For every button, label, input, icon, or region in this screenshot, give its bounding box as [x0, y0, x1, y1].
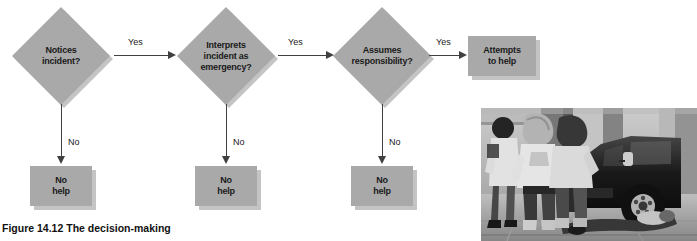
arrow-line: [226, 104, 227, 157]
outcome-node-attempts-to-help: Attempts to help: [468, 36, 536, 76]
node-label-line: incident?: [42, 56, 80, 67]
figure-decision-making-flowchart: Notices incident? Interprets incident as…: [0, 0, 697, 241]
node-label-line: No: [220, 175, 232, 186]
edge-label-yes-2: Yes: [288, 37, 303, 47]
arrow-head-icon: [168, 51, 176, 59]
node-label-line: to help: [488, 56, 516, 67]
decision-node-notices-incident: Notices incident?: [12, 7, 110, 105]
figure-caption-title: The decision-making: [66, 222, 170, 234]
edge-label-yes-3: Yes: [436, 37, 451, 47]
arrow-assumes-to-no-help-3: [378, 104, 387, 164]
photo-content: [481, 108, 697, 241]
arrow-interprets-to-no-help-2: [222, 104, 231, 164]
arrow-head-icon: [459, 51, 467, 59]
arrow-assumes-to-attempts: [429, 51, 467, 60]
arrow-interprets-to-assumes: [278, 51, 334, 60]
arrow-head-icon: [222, 156, 230, 164]
arrow-notices-to-no-help-1: [57, 104, 66, 164]
box-shape: No help: [351, 166, 413, 206]
node-label-line: No: [376, 175, 388, 186]
figure-caption: Figure 14.12The decision-making: [2, 222, 171, 234]
outcome-node-no-help-3: No help: [351, 166, 413, 206]
arrow-notices-to-interprets: [114, 51, 176, 60]
decision-node-label: Assumes responsibility?: [333, 7, 431, 105]
arrow-head-icon: [326, 51, 334, 59]
decision-node-assumes-responsibility: Assumes responsibility?: [333, 7, 431, 105]
node-label-line: Assumes: [363, 45, 402, 56]
node-label-line: help: [373, 186, 391, 197]
figure-caption-number: Figure 14.12: [2, 222, 63, 234]
decision-node-interprets-emergency: Interprets incident as emergency?: [177, 7, 275, 105]
decision-node-label: Interprets incident as emergency?: [177, 7, 275, 105]
node-label-line: emergency?: [200, 62, 251, 73]
node-label-line: Interprets: [206, 40, 246, 51]
node-label-line: Attempts: [483, 45, 520, 56]
node-label-line: Notices: [45, 45, 76, 56]
arrow-line: [429, 55, 460, 56]
arrow-line: [114, 55, 169, 56]
arrow-line: [61, 104, 62, 157]
arrow-line: [278, 55, 327, 56]
node-label-line: responsibility?: [351, 56, 412, 67]
bystander-photograph: [481, 108, 697, 241]
node-label-line: incident as: [204, 51, 249, 62]
box-shape: No help: [195, 166, 257, 206]
box-shape: Attempts to help: [468, 36, 536, 76]
arrow-head-icon: [378, 156, 386, 164]
arrow-head-icon: [57, 156, 65, 164]
edge-label-no-3: No: [389, 137, 401, 147]
decision-node-label: Notices incident?: [12, 7, 110, 105]
node-label-line: help: [52, 186, 70, 197]
arrow-line: [382, 104, 383, 157]
edge-label-no-2: No: [233, 137, 245, 147]
box-shape: No help: [30, 166, 92, 206]
edge-label-yes-1: Yes: [128, 37, 143, 47]
node-label-line: help: [217, 186, 235, 197]
outcome-node-no-help-2: No help: [195, 166, 257, 206]
edge-label-no-1: No: [68, 137, 80, 147]
node-label-line: No: [55, 175, 67, 186]
outcome-node-no-help-1: No help: [30, 166, 92, 206]
